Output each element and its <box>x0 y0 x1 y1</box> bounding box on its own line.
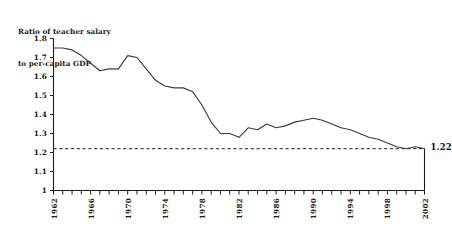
y-axis-tick-label: 1.6 <box>21 72 47 81</box>
y-axis-tick-label: 1.5 <box>21 91 47 100</box>
x-axis-tick-label: 1990 <box>309 198 318 219</box>
x-axis-tick-label: 1962 <box>50 198 59 219</box>
y-axis-tick-label: 1.3 <box>21 129 47 138</box>
x-axis-tick-label: 1966 <box>87 198 96 219</box>
x-axis-tick-label: 1970 <box>124 198 133 219</box>
x-axis-tick-label: 1982 <box>235 198 244 219</box>
x-axis-tick-label: 2002 <box>421 198 430 219</box>
y-axis-tick-label: 1.7 <box>21 53 47 62</box>
y-axis-tick-label: 1.1 <box>21 167 47 176</box>
x-axis-tick-label: 1994 <box>346 198 355 219</box>
x-axis-tick-label: 1978 <box>198 198 207 219</box>
endpoint-value-label: 1.22 <box>431 142 452 152</box>
y-axis-tick-label: 1 <box>21 186 47 195</box>
y-axis-tick-label: 1.2 <box>21 148 47 157</box>
x-axis-tick-label: 1974 <box>161 198 170 219</box>
x-axis-tick-label: 1986 <box>272 198 281 219</box>
x-axis-tick-label: 1998 <box>383 198 392 219</box>
data-series-line <box>54 48 425 149</box>
y-axis-tick-label: 1.4 <box>21 110 47 119</box>
y-axis-tick-label: 1.8 <box>21 34 47 43</box>
